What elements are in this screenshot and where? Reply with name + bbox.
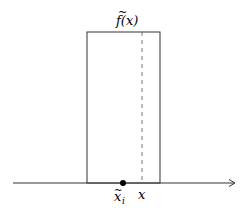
function-label: f(x) [115, 13, 138, 28]
point-label: x [114, 189, 122, 204]
point-label-sub: i [122, 196, 125, 206]
box-function [87, 32, 160, 183]
x-label: x [138, 187, 146, 202]
diagram-canvas: ~ f(x) ~ x i x [0, 0, 243, 213]
